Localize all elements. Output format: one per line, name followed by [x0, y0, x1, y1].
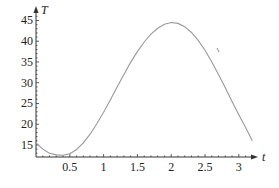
- y-axis-label: T: [41, 3, 49, 17]
- y-tick-label: 20: [21, 117, 33, 131]
- x-tick-label: 0.5: [62, 160, 77, 174]
- y-axis-arrow-icon: [34, 6, 39, 13]
- x-tick-label: 2.5: [198, 160, 213, 174]
- y-tick-label: 40: [21, 34, 33, 48]
- stray-mark: [217, 48, 219, 52]
- y-tick-label: 25: [21, 96, 33, 110]
- x-axis-label: t: [262, 150, 266, 164]
- x-tick-label: 3: [236, 160, 242, 174]
- y-axis: 15202530354045 T: [21, 3, 49, 157]
- x-tick-label: 2: [168, 160, 174, 174]
- x-tick-label: 1: [101, 160, 107, 174]
- y-tick-label: 15: [21, 138, 33, 152]
- y-tick-label: 45: [21, 13, 33, 27]
- y-tick-label: 35: [21, 55, 33, 69]
- x-axis-arrow-icon: [251, 155, 258, 160]
- y-tick-label: 30: [21, 76, 33, 90]
- data-series-line: [36, 23, 252, 156]
- x-tick-label: 1.5: [130, 160, 145, 174]
- line-chart: 15202530354045 T 0.511.522.53 t: [0, 0, 279, 188]
